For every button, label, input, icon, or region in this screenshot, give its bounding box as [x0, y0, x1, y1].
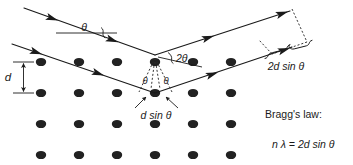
ray-arrowhead — [201, 32, 215, 43]
two-d-sin-theta-label: 2d sin θ — [267, 60, 305, 72]
ray-arrowhead — [105, 35, 119, 46]
atom-dot — [112, 120, 122, 128]
ray-arrowhead — [29, 47, 43, 58]
atom-dot — [188, 151, 198, 159]
theta-incidence-label: θ — [81, 21, 87, 33]
incident-ray-upper-line — [24, 8, 155, 55]
incident-ray-upper — [24, 8, 155, 55]
atom-dot — [226, 89, 236, 97]
atom-dot — [112, 151, 122, 159]
atom-dot — [188, 89, 198, 97]
braggs-law-equation: n λ = 2d sin θ — [272, 138, 335, 150]
atom-dot — [74, 58, 84, 66]
d-sin-theta-label: d sin θ — [141, 109, 172, 121]
atom-dot — [112, 58, 122, 66]
atom-dot — [150, 151, 160, 159]
lattice-row — [36, 120, 236, 128]
diagram-canvas: θ 2θ θ θ d sin θ d — [0, 0, 353, 165]
lattice-row — [36, 89, 236, 97]
d-spacing-dimension: d — [5, 62, 34, 93]
ray-arrowhead — [275, 8, 289, 19]
ray-arrowhead — [205, 69, 219, 80]
two-theta-label: 2θ — [175, 52, 188, 64]
d-sin-theta-arrow-left — [135, 97, 146, 108]
atom-dot — [74, 151, 84, 159]
reflected-ray-upper — [155, 8, 290, 55]
curly-brace-icon — [265, 40, 312, 58]
atom-dot — [188, 120, 198, 128]
atom-dot — [36, 89, 46, 97]
atom-dot — [74, 120, 84, 128]
braggs-law-text-block: Bragg's law: n λ = 2d sin θ — [265, 108, 335, 150]
lattice-row — [36, 151, 236, 159]
atom-dot — [74, 89, 84, 97]
two-theta-bracket — [168, 53, 173, 64]
parallelogram-edge-right — [292, 9, 307, 42]
atom-dot — [226, 120, 236, 128]
total-path-difference-annotation: 2d sin θ — [265, 40, 312, 72]
theta-right-label: θ — [163, 75, 169, 86]
atom-dot — [36, 58, 46, 66]
braggs-law-heading: Bragg's law: — [265, 108, 322, 120]
path-difference-single-annotation: d sin θ — [135, 97, 178, 121]
theta-left-label: θ — [142, 75, 148, 86]
incident-ray-lower — [12, 44, 155, 93]
atom-dot — [150, 120, 160, 128]
atom-dot — [36, 151, 46, 159]
atom-dot — [36, 120, 46, 128]
reflected-ray-upper-line — [155, 11, 290, 55]
atom-dot — [226, 58, 236, 66]
atom-dot — [112, 89, 122, 97]
bragg-law-diagram: θ 2θ θ θ d sin θ d — [0, 0, 353, 165]
parallelogram-edge-left — [259, 40, 272, 54]
d-sin-theta-arrow-right — [166, 97, 178, 108]
path-difference-construction: θ θ — [139, 58, 172, 92]
atom-dot — [226, 151, 236, 159]
ray-arrowhead — [91, 68, 105, 79]
d-spacing-label: d — [5, 71, 12, 83]
ray-arrowhead — [45, 13, 59, 24]
